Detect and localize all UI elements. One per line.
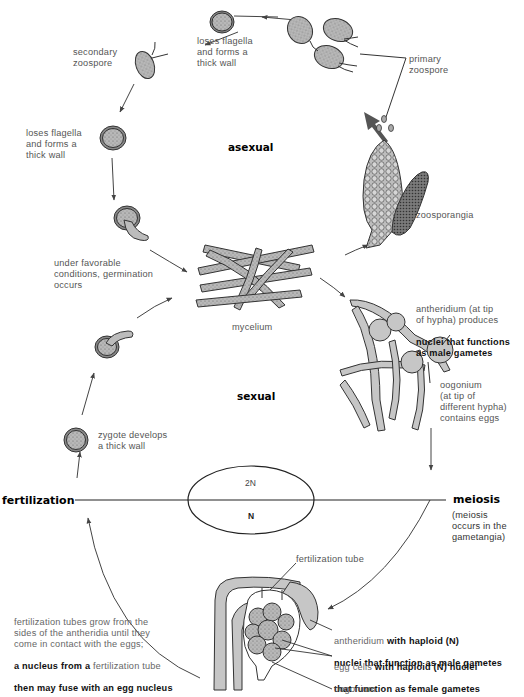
event-label-fertilization: fertilization xyxy=(2,494,74,507)
fert-tubes-text-2a: a nucleus from a xyxy=(14,661,90,671)
ploidy-label-n: N xyxy=(248,511,254,521)
antheridium-tip-text-2: nuclei that functions as male gametes xyxy=(416,337,510,358)
egg-cells-text-a: egg cells xyxy=(334,662,372,672)
label-germination: under favorable conditions, germination … xyxy=(54,258,153,291)
label-oogonium-tip: oogonium (at tip of different hypha) con… xyxy=(440,380,507,424)
phase-label-asexual: asexual xyxy=(228,141,273,153)
ploidy-label-2n: 2N xyxy=(245,478,256,488)
label-mycelium: mycelium xyxy=(232,322,272,333)
label-oogonium-bottom: oogonium xyxy=(334,684,376,695)
antheridium-haploid-text-b: with haploid (N) xyxy=(384,636,459,646)
life-cycle-diagram: loses flagella and forms a thick wall se… xyxy=(0,0,524,697)
fert-tubes-text-1: fertilization tubes grow from the sides … xyxy=(14,617,150,649)
label-secondary-zoospore: secondary zoospore xyxy=(73,47,117,69)
label-zoosporangia: zoosporangia xyxy=(416,210,474,221)
label-fertilization-tube: fertilization tube xyxy=(296,554,364,565)
antheridium-tip-text-1: antheridium (at tip of hypha) produces xyxy=(416,304,498,325)
egg-cells-text-b: with haploid (N) nuclei xyxy=(372,662,477,672)
label-meiosis-note: (meiosis occurs in the gametangia) xyxy=(452,510,507,543)
fert-tubes-text-2b: fertilization tube xyxy=(90,661,161,671)
label-loses-flagella-top: loses flagella and forms a thick wall xyxy=(197,36,253,69)
label-fertilization-tubes-grow: fertilization tubes grow from the sides … xyxy=(14,606,173,694)
label-loses-flagella-left: loses flagella and forms a thick wall xyxy=(26,128,82,161)
label-antheridium-tip: antheridium (at tip of hypha) produces n… xyxy=(416,293,510,359)
fert-tubes-text-3: then may fuse with an egg nucleus xyxy=(14,683,173,693)
event-label-meiosis: meiosis xyxy=(453,493,500,506)
label-primary-zoospore: primary zoospore xyxy=(409,54,448,76)
phase-label-sexual: sexual xyxy=(237,390,275,402)
antheridium-haploid-text-a: antheridium xyxy=(334,636,384,646)
label-zygote: zygote develops a thick wall xyxy=(98,430,167,452)
